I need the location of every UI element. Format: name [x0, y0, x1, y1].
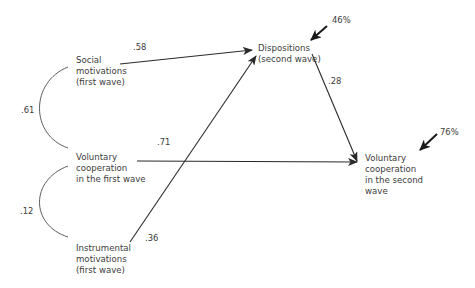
- variance-explained-vc2: 76%: [440, 127, 459, 137]
- arrow-vc1-to-vc2: [137, 161, 357, 162]
- node-line: wave: [365, 186, 423, 197]
- node-line: Social: [76, 55, 127, 66]
- correlation-social-vc1: .61: [21, 105, 34, 115]
- arrow-instrumental-to-dispositions: [130, 56, 256, 242]
- variance-arrow-dispositions: [311, 26, 327, 40]
- node-line: Voluntary: [76, 152, 146, 163]
- node-line: in the second: [365, 175, 423, 186]
- arrow-social-to-dispositions: [120, 50, 252, 64]
- node-voluntary-cooperation-second-wave: Voluntary cooperation in the second wave: [365, 153, 423, 197]
- node-line: motivations: [76, 66, 127, 77]
- node-line: cooperation: [76, 163, 146, 174]
- arrow-dispositions-to-vc2: [312, 54, 357, 161]
- node-line: Voluntary: [365, 153, 423, 164]
- correlation-arc-social-vc1: [40, 67, 69, 148]
- path-coef-vc1-vc2: .71: [157, 137, 170, 147]
- node-voluntary-cooperation-first-wave: Voluntary cooperation in the first wave: [76, 152, 146, 185]
- variance-explained-dispositions: 46%: [332, 15, 351, 25]
- node-line: in the first wave: [76, 174, 146, 185]
- path-coef-instrumental-dispositions: .36: [145, 233, 158, 243]
- path-diagram-edges: [0, 0, 475, 288]
- node-line: (second wave): [258, 54, 321, 65]
- node-line: Instrumental: [76, 243, 131, 254]
- node-line: cooperation: [365, 164, 423, 175]
- correlation-vc1-instrumental: .12: [20, 206, 33, 216]
- correlation-arc-vc1-instrumental: [40, 166, 69, 237]
- node-social-motivations: Social motivations (first wave): [76, 55, 127, 88]
- path-coef-social-dispositions: .58: [133, 42, 146, 52]
- node-line: (first wave): [76, 77, 127, 88]
- node-line: motivations: [76, 254, 131, 265]
- node-instrumental-motivations: Instrumental motivations (first wave): [76, 243, 131, 276]
- node-dispositions: Dispositions (second wave): [258, 43, 321, 65]
- node-line: (first wave): [76, 265, 131, 276]
- path-coef-dispositions-vc2: .28: [328, 76, 341, 86]
- node-line: Dispositions: [258, 43, 321, 54]
- variance-arrow-vc2: [420, 134, 437, 150]
